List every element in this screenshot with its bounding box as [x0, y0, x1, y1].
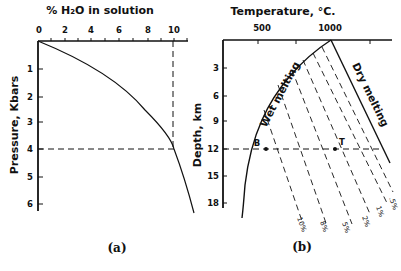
- point-t-label: T: [339, 137, 345, 147]
- point-t-marker: [333, 147, 337, 151]
- y-tick: 3: [213, 63, 219, 73]
- isopleth-label: 2%: [360, 215, 371, 228]
- y-tick: 1: [27, 64, 33, 74]
- y-tick: 12: [207, 144, 219, 154]
- x-tick: 8: [145, 25, 151, 35]
- point-b-label: B: [254, 138, 260, 148]
- panel-a-caption: (a): [107, 241, 126, 255]
- x-tick: 10: [168, 25, 180, 35]
- panel-b-y-title: Depth, km: [191, 103, 204, 167]
- x-tick: 4: [88, 25, 94, 35]
- panel-a-x-title: % H₂O in solution: [46, 4, 154, 17]
- x-tick: 1000: [318, 23, 342, 33]
- y-tick: 6: [27, 199, 33, 209]
- point-b-marker: [264, 147, 268, 151]
- y-tick: 2: [27, 92, 33, 102]
- solubility-curve: [38, 41, 194, 213]
- x-tick: 500: [253, 23, 271, 33]
- panel-b-caption: (b): [292, 240, 312, 254]
- y-tick: 18: [207, 198, 219, 208]
- x-tick: 6: [116, 25, 122, 35]
- isopleth-label: 10%: [295, 216, 308, 234]
- isopleth-label: .5%: [387, 196, 399, 212]
- y-tick: 4: [27, 144, 33, 154]
- y-tick: 6: [213, 91, 219, 101]
- panel-a: % H₂O in solution 0 2 4 6 8 10 1 2 3 4 5: [8, 4, 194, 255]
- panel-b: Temperature, °C. 500 1000 3 6 9 12 15 18…: [191, 5, 399, 254]
- y-tick: 15: [207, 171, 219, 181]
- y-tick: 9: [213, 116, 219, 126]
- isopleth-label: 8%: [318, 220, 329, 233]
- panel-b-x-title: Temperature, °C.: [231, 5, 336, 18]
- y-tick: 5: [27, 172, 33, 182]
- x-tick: 2: [62, 25, 68, 35]
- isopleth-label: 1%: [374, 205, 385, 218]
- isopleth-label: 5%: [340, 221, 351, 234]
- figure: % H₂O in solution 0 2 4 6 8 10 1 2 3 4 5: [0, 0, 401, 271]
- x-tick: 0: [36, 25, 42, 35]
- wet-melting-label: Wet melting: [257, 59, 302, 128]
- panel-a-y-title: Pressure, Kbars: [8, 75, 21, 174]
- y-tick: 3: [27, 117, 33, 127]
